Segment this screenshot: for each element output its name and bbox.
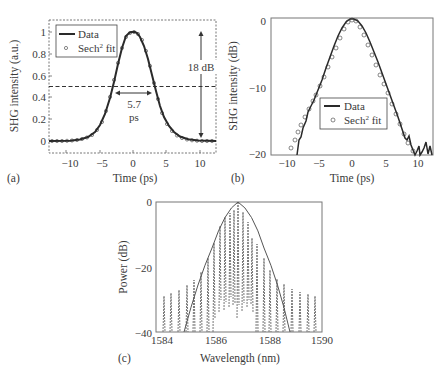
c-ytick: −20 (135, 262, 153, 274)
panel-b-frame (271, 18, 433, 155)
c-ytick: 0 (147, 196, 153, 208)
c-xtick: 1590 (311, 334, 334, 346)
b-xtick: 0 (349, 157, 355, 169)
a-xlabel: Time (ps) (113, 172, 158, 185)
a-xtick: −5 (96, 157, 108, 169)
b-xlabel: Time (ps) (330, 172, 375, 185)
b-ytick: −10 (249, 82, 267, 94)
c-xtick: 1586 (205, 334, 228, 346)
a-panel-label: (a) (7, 172, 20, 185)
panel-c: 1584 1586 1588 1590 0 −20 −40 Wavelength… (117, 196, 334, 365)
b-panel-label: (b) (231, 172, 245, 185)
arrowhead-up-icon (199, 31, 204, 36)
a-ylabel: SHG intensity (a.u.) (8, 40, 21, 133)
panel-a: −10 −5 0 5 10 0 0.2 0.4 0.6 0.8 1 Time (… (7, 20, 217, 185)
a-xtick: −10 (61, 157, 79, 169)
c-xtick: 1588 (259, 334, 282, 346)
a-legend-fit: Sech2 fit (78, 42, 115, 54)
a-ytick: 0.6 (32, 70, 46, 82)
b-data-curve (297, 19, 432, 155)
panel-c-frame (156, 202, 322, 332)
c-ytick: −40 (135, 327, 153, 339)
fwhm-unit: ps (129, 111, 139, 123)
b-ylabel: SHG intensity (dB) (227, 41, 240, 131)
a-ytick: 0.8 (32, 48, 46, 60)
panel-b: −10 −5 0 5 10 0 −10 −20 Time (ps) SHG in… (227, 15, 433, 185)
b-xtick: −5 (313, 157, 325, 169)
c-xtick: 1584 (151, 334, 174, 346)
fwhm-value: 5.7 (127, 98, 141, 110)
b-legend-data: Data (344, 100, 365, 112)
c-spectrum (163, 203, 316, 332)
c-xlabel: Wavelength (nm) (200, 352, 280, 365)
b-xtick: 5 (383, 157, 389, 169)
a-xtick: 5 (163, 157, 169, 169)
arrowhead-down-icon (199, 133, 204, 138)
dynamic-range-label: 18 dB (188, 61, 215, 73)
fwhm-arrowhead-right-icon (147, 91, 152, 96)
a-ytick: 0.4 (32, 91, 46, 103)
b-legend-fit: Sech2 fit (344, 114, 381, 126)
a-xtick: 10 (195, 157, 207, 169)
a-ytick: 1 (41, 26, 47, 38)
b-ytick: 0 (261, 15, 267, 27)
a-ytick: 0.2 (32, 113, 46, 125)
a-ytick: 0 (41, 135, 47, 147)
b-xtick: −10 (278, 157, 296, 169)
c-panel-label: (c) (118, 352, 131, 365)
b-ytick: −20 (249, 148, 267, 160)
c-ylabel: Power (dB) (117, 240, 130, 294)
figure: −10 −5 0 5 10 0 0.2 0.4 0.6 0.8 1 Time (… (0, 0, 445, 380)
a-legend-data: Data (78, 28, 99, 40)
b-xtick: 10 (413, 157, 425, 169)
b-fit-markers (289, 18, 415, 153)
a-xtick: 0 (130, 157, 136, 169)
fwhm-arrowhead-left-icon (115, 91, 120, 96)
